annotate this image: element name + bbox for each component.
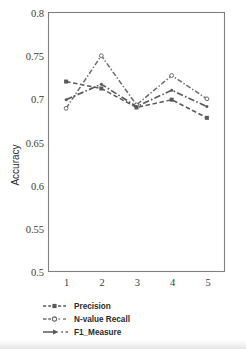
data-point-marker: [64, 106, 68, 110]
legend-item-label: F1_Measure: [74, 328, 122, 337]
data-point-marker: [100, 83, 103, 86]
x-tick-label: 3: [135, 277, 140, 288]
x-tick-label: 4: [170, 277, 176, 288]
series-line: [66, 82, 207, 118]
legend-item-n-value-recall[interactable]: N-value Recall: [43, 315, 130, 324]
data-point-marker: [170, 89, 173, 92]
series-group: [64, 54, 209, 120]
y-tick-label: 0.5: [31, 267, 44, 278]
y-tick-label: 0.55: [26, 224, 44, 235]
x-tick-label: 2: [99, 277, 104, 288]
data-point-marker: [205, 105, 208, 108]
x-tick-label: 5: [205, 277, 210, 288]
y-tick-label: 0.65: [26, 138, 44, 149]
legend-item-f1-measure[interactable]: F1_Measure: [43, 328, 122, 337]
data-point-marker: [99, 54, 103, 58]
x-tick-label: 1: [64, 277, 69, 288]
series-line: [66, 56, 207, 109]
data-point-marker: [99, 86, 103, 90]
dashdot-arrow-marker-icon: [43, 330, 68, 335]
y-tick-label: 0.6: [31, 181, 44, 192]
dashdot-open-circle-marker-icon: [43, 317, 66, 321]
data-point-marker: [65, 98, 68, 101]
plot-frame: [49, 13, 225, 272]
dashed-square-marker-icon: [43, 304, 66, 308]
chart-figure: 0.8 0.75 0.7 0.65 0.6 0.55 0.5 1 2 3 4 5…: [0, 0, 246, 349]
y-tick-label: 0.8: [31, 8, 44, 19]
y-axis-tick-labels: 0.8 0.75 0.7 0.65 0.6 0.55 0.5: [26, 8, 44, 279]
legend-item-precision[interactable]: Precision: [43, 302, 111, 311]
chart-legend: Precision N-value Recall: [43, 302, 130, 337]
data-point-marker: [205, 116, 209, 120]
data-point-marker: [170, 74, 174, 78]
x-axis-tick-labels: 1 2 3 4 5: [64, 277, 211, 288]
data-point-marker: [205, 97, 209, 101]
data-point-marker: [135, 105, 138, 108]
y-tick-label: 0.75: [26, 51, 44, 62]
legend-item-label: Precision: [74, 302, 111, 311]
accuracy-line-chart: 0.8 0.75 0.7 0.65 0.6 0.55 0.5 1 2 3 4 5…: [0, 0, 246, 349]
data-point-marker: [170, 98, 174, 102]
y-axis-title: Accuracy: [10, 144, 21, 185]
y-tick-label: 0.7: [31, 94, 44, 105]
data-point-marker: [64, 80, 68, 84]
legend-item-label: N-value Recall: [74, 315, 130, 324]
